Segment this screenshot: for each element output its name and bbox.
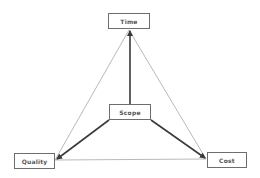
node-cost: Cost — [207, 152, 247, 168]
arrow-scope-cost — [151, 120, 205, 158]
edge-time-quality — [55, 30, 129, 160]
node-scope-label: Scope — [119, 109, 140, 116]
node-time: Time — [108, 13, 150, 29]
edge-time-cost — [129, 30, 206, 159]
node-quality: Quality — [14, 153, 55, 169]
node-quality-label: Quality — [22, 158, 48, 165]
arrow-scope-quality — [57, 120, 109, 159]
triangle-diagram: Time Scope Quality Cost — [0, 0, 260, 178]
node-cost-label: Cost — [219, 157, 235, 164]
edge-quality-cost — [55, 159, 206, 160]
node-scope: Scope — [109, 104, 151, 120]
node-time-label: Time — [120, 18, 137, 25]
